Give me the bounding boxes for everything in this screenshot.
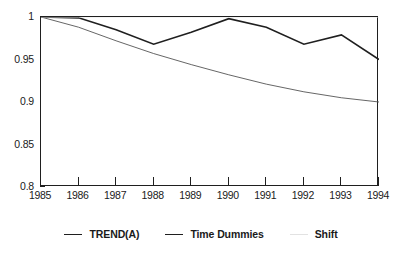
x-tick-label: 1988 [133, 190, 173, 201]
x-tick-label: 1986 [58, 190, 98, 201]
x-tick-mark [378, 177, 379, 186]
chart-legend: TREND(A)Time DummiesShift [0, 224, 402, 244]
chart-figure: 0.80.850.90.951 198519861987198819891990… [0, 0, 402, 256]
x-tick-label: 1990 [208, 190, 248, 201]
x-tick-label: 1985 [20, 190, 60, 201]
legend-label: Time Dummies [190, 228, 263, 240]
x-tick-label: 1989 [170, 190, 210, 201]
x-tick-label: 1992 [283, 190, 323, 201]
legend-label: TREND(A) [89, 228, 139, 240]
x-tick-label: 1994 [358, 190, 398, 201]
series-line [41, 17, 379, 60]
y-tick-label: 1 [0, 11, 34, 21]
x-tick-label: 1987 [95, 190, 135, 201]
x-tick-mark [115, 177, 116, 186]
x-tick-mark [303, 177, 304, 186]
series-line [41, 17, 379, 102]
plot-area [40, 16, 378, 186]
y-tick-label: 0.85 [0, 139, 34, 149]
legend-item[interactable]: Time Dummies [165, 228, 263, 240]
x-tick-mark [265, 177, 266, 186]
x-tick-mark [340, 177, 341, 186]
legend-line-swatch [290, 234, 308, 235]
legend-label: Shift [315, 228, 338, 240]
series-canvas [41, 17, 379, 187]
x-tick-mark [228, 177, 229, 186]
legend-line-swatch [165, 234, 183, 235]
x-tick-mark [190, 177, 191, 186]
x-tick-mark [40, 177, 41, 186]
x-tick-label: 1993 [320, 190, 360, 201]
x-tick-mark [153, 177, 154, 186]
legend-line-swatch [64, 234, 82, 235]
y-tick-label: 0.9 [0, 96, 34, 106]
legend-item[interactable]: Shift [290, 228, 338, 240]
x-tick-label: 1991 [245, 190, 285, 201]
legend-item[interactable]: TREND(A) [64, 228, 139, 240]
x-tick-mark [78, 177, 79, 186]
y-tick-label: 0.95 [0, 54, 34, 64]
